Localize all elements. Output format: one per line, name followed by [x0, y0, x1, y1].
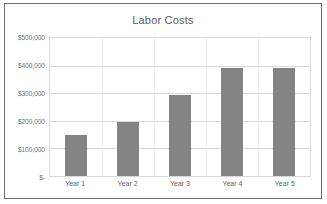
bar-slot — [258, 38, 310, 176]
bar-slot — [50, 38, 102, 176]
y-axis-tick-label: $200,000 — [5, 118, 45, 125]
plot-area — [49, 37, 311, 177]
bar-year-2[interactable] — [117, 122, 139, 176]
bar-series — [50, 38, 310, 176]
chart-frame: Labor Costs $500,000 $400,000 $300,000 $… — [4, 3, 322, 199]
x-axis-tick-label: Year 4 — [206, 180, 258, 187]
y-axis-tick-label: $- — [5, 174, 45, 181]
y-axis-tick-label: $300,000 — [5, 90, 45, 97]
bar-slot — [154, 38, 206, 176]
bar-year-4[interactable] — [221, 68, 243, 176]
chart-title: Labor Costs — [5, 14, 321, 26]
bar-year-1[interactable] — [65, 135, 87, 176]
x-axis-tick-label: Year 1 — [49, 180, 101, 187]
y-axis-tick-label: $100,000 — [5, 146, 45, 153]
x-axis: Year 1 Year 2 Year 3 Year 4 Year 5 — [49, 180, 311, 187]
bar-year-5[interactable] — [273, 68, 295, 176]
y-axis-tick-label: $400,000 — [5, 62, 45, 69]
y-axis-tick-label: $500,000 — [5, 34, 45, 41]
bar-slot — [102, 38, 154, 176]
x-axis-tick-label: Year 5 — [259, 180, 311, 187]
x-axis-tick-label: Year 3 — [154, 180, 206, 187]
bar-slot — [206, 38, 258, 176]
y-axis: $500,000 $400,000 $300,000 $200,000 $100… — [5, 37, 45, 177]
x-axis-tick-label: Year 2 — [101, 180, 153, 187]
bar-year-3[interactable] — [169, 95, 191, 176]
